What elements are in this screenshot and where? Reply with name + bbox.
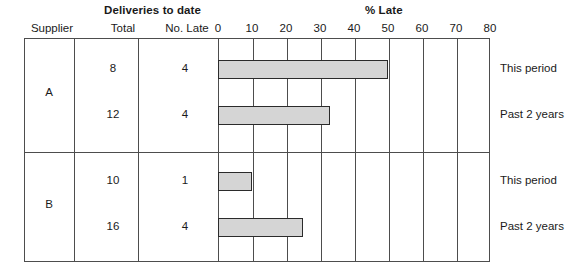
delivery-performance-chart: Deliveries to date % Late Supplier Total… [0, 0, 576, 272]
supplier-label-a: A [24, 86, 74, 98]
nolate-b-this-period: 1 [155, 174, 215, 186]
gridline-60 [423, 39, 424, 261]
deliveries-group-title: Deliveries to date [104, 4, 201, 16]
total-a-past-2-years: 12 [88, 108, 138, 120]
column-header-supplier: Supplier [16, 22, 88, 34]
total-a-this-period: 8 [88, 62, 138, 74]
row-label-a-past-2-years: Past 2 years [500, 108, 564, 120]
bar-b-this-period [218, 172, 252, 191]
bar-b-past-2-years [218, 218, 303, 237]
bar-a-this-period [218, 60, 388, 79]
row-label-b-this-period: This period [500, 174, 557, 186]
nolate-b-past-2-years: 4 [155, 220, 215, 232]
gridline-50 [389, 39, 390, 261]
axis-tick-50: 50 [376, 22, 400, 34]
axis-tick-10: 10 [240, 22, 264, 34]
column-header-total: Total [87, 22, 159, 34]
bar-a-past-2-years [218, 106, 330, 125]
supplier-label-b: B [24, 198, 74, 210]
row-label-b-past-2-years: Past 2 years [500, 220, 564, 232]
row-label-a-this-period: This period [500, 62, 557, 74]
divider-total-nolate [138, 39, 139, 261]
nolate-a-past-2-years: 4 [155, 108, 215, 120]
percent-late-axis-title: % Late [365, 4, 403, 16]
axis-tick-60: 60 [410, 22, 434, 34]
total-b-past-2-years: 16 [88, 220, 138, 232]
axis-tick-30: 30 [308, 22, 332, 34]
total-b-this-period: 10 [88, 174, 138, 186]
gridline-70 [457, 39, 458, 261]
axis-tick-20: 20 [274, 22, 298, 34]
axis-tick-0: 0 [206, 22, 230, 34]
axis-tick-40: 40 [342, 22, 366, 34]
axis-tick-80: 80 [478, 22, 502, 34]
divider-group-a-b [25, 152, 489, 153]
nolate-a-this-period: 4 [155, 62, 215, 74]
axis-tick-70: 70 [444, 22, 468, 34]
divider-supplier-total [74, 39, 75, 261]
